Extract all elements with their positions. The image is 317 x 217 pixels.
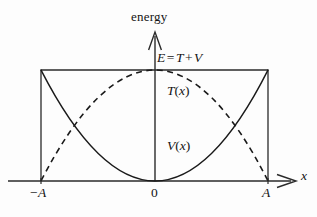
x-axis-title: x [301, 169, 307, 183]
plus-sign: + [183, 50, 194, 65]
paren-close: ) [186, 138, 191, 153]
potential-symbol: V [194, 50, 202, 65]
total-energy-level-label: E=T+V [157, 51, 202, 65]
potential-curve-label: V(x) [167, 139, 190, 153]
tick-label-origin: 0 [151, 186, 158, 200]
total-energy-symbol: E [157, 50, 165, 65]
potential-function-name: V [167, 138, 175, 153]
y-axis-title: energy [131, 10, 167, 23]
tick-label-plus-a: A [262, 186, 270, 200]
kinetic-function-name: T [167, 83, 175, 98]
equals-sign: = [165, 50, 176, 65]
energy-diagram-figure: energy E=T+V T(x) V(x) −A 0 A x [0, 0, 317, 217]
kinetic-curve-label: T(x) [167, 84, 190, 98]
tick-label-minus-a: −A [29, 186, 46, 200]
paren-close: ) [185, 83, 190, 98]
